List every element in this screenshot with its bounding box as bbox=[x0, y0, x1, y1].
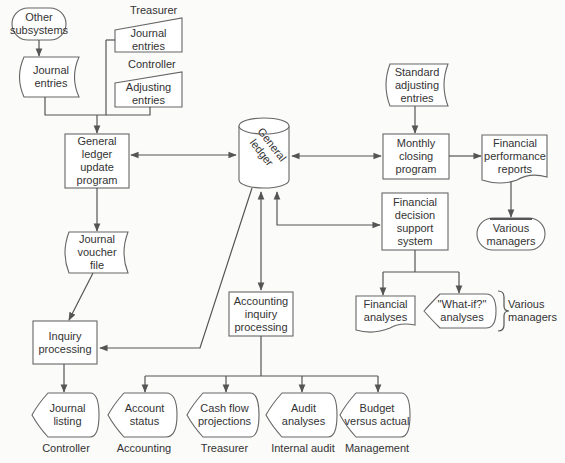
monthly-closing-program-label: Monthly closing program bbox=[383, 134, 449, 179]
inquiry-processing-label: Inquiry processing bbox=[33, 321, 97, 364]
account-status-caption: Accounting bbox=[108, 440, 180, 456]
various-managers-terminal-label: Various managers bbox=[477, 219, 545, 250]
accounting-inquiry-processing-label: Accounting inquiry processing bbox=[229, 292, 293, 336]
audit-analyses-caption: Internal audit bbox=[264, 440, 342, 456]
other-subsystems-label: Other subsystems bbox=[12, 8, 66, 40]
financial-performance-reports-label: Financial performance reports bbox=[480, 136, 550, 176]
treasurer-caption: Treasurer bbox=[130, 4, 177, 17]
journal-listing-label: Journal listing bbox=[36, 393, 99, 437]
standard-adjusting-entries-label: Standard adjusting entries bbox=[384, 64, 450, 106]
journal-voucher-file-label: Journal voucher file bbox=[65, 232, 129, 273]
cash-flow-projections-label: Cash flow projections bbox=[190, 393, 259, 437]
journal-entries-label: Journal entries bbox=[20, 57, 82, 97]
various-managers-bracket-label: Various managers bbox=[508, 296, 564, 326]
gl-update-program-label: General ledger update program bbox=[65, 134, 129, 188]
audit-analyses-label: Audit analyses bbox=[270, 393, 337, 437]
controller-adjusting-entries-label: Adjusting entries bbox=[115, 81, 182, 107]
journal-listing-caption: Controller bbox=[33, 440, 99, 456]
treasurer-journal-entries-label: Journal entries bbox=[115, 27, 182, 53]
controller-caption: Controller bbox=[128, 58, 176, 71]
what-if-analyses-label: "What-if?" analyses bbox=[428, 294, 496, 328]
budget-versus-actual-caption: Management bbox=[340, 440, 414, 456]
cash-flow-projections-caption: Treasurer bbox=[190, 440, 259, 456]
financial-analyses-label: Financial analyses bbox=[356, 296, 415, 326]
budget-versus-actual-label: Budget versus actual bbox=[342, 393, 412, 437]
flowchart-canvas: Other subsystems Journal entries Treasur… bbox=[0, 0, 565, 463]
account-status-label: Account status bbox=[112, 393, 177, 437]
financial-decision-support-label: Financial decision support system bbox=[382, 193, 448, 250]
